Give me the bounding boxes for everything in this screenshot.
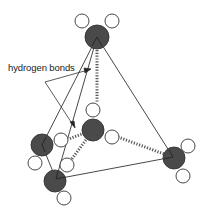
water-molecule-top [75,14,119,49]
hydrogen-atom [57,191,71,205]
hydrogen-atom [176,169,190,183]
hydrogen-bonds [69,50,164,160]
oxygen-atom [163,147,185,169]
hydrogen-atom [60,158,74,172]
water-molecule-center [82,103,119,144]
tetrahedral-water-hydrogen-bond-diagram [0,0,209,219]
pointer-line-lower [45,82,73,125]
hydrogen-atom [54,133,68,147]
hydrogen-atom [28,156,42,170]
hydrogen-atom [105,14,119,28]
hbond-center-left [69,133,84,139]
water-molecule-right [163,139,195,183]
label-pointers [45,68,91,128]
hbond-center-bottomleft [71,140,86,160]
hydrogen-atom [86,103,100,117]
hydrogen-atom [75,14,89,28]
water-molecule-bottom-left [44,158,74,205]
hydrogen-atom [105,130,119,144]
hbond-center-right [118,137,164,154]
oxygen-atom [44,170,66,192]
oxygen-atom [82,119,104,141]
hydrogen-atom [181,139,195,153]
arrowhead-upper [84,68,91,73]
hydrogen-bonds-label: hydrogen bonds [8,62,75,73]
